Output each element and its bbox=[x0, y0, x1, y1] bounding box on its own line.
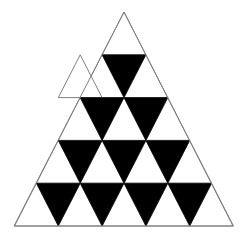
figure-canvas bbox=[0, 0, 250, 234]
triangle-figure-svg bbox=[0, 0, 250, 234]
